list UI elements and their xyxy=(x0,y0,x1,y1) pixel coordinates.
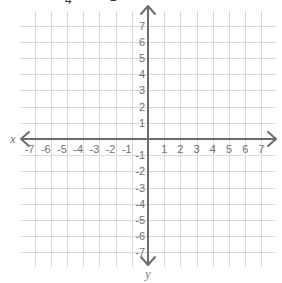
x-tick-label: 4 xyxy=(210,143,216,155)
y-tick-label: 5 xyxy=(139,52,145,64)
y-tick-label: 7 xyxy=(139,20,145,32)
x-tick-label: 3 xyxy=(194,143,200,155)
y-tick-label: -4 xyxy=(135,198,145,210)
x-tick-label: -7 xyxy=(25,143,35,155)
y-tick-label: 3 xyxy=(139,84,145,96)
y-tick-label: -6 xyxy=(135,230,145,242)
x-tick-label: -3 xyxy=(90,143,100,155)
cropped-header-fragment-1: 4 xyxy=(65,0,72,6)
x-tick-label: -4 xyxy=(73,143,83,155)
x-axis-label: x xyxy=(9,132,16,146)
x-tick-label: 2 xyxy=(177,143,183,155)
cropped-header-fragment-2: 2 xyxy=(110,0,117,3)
axes xyxy=(21,6,276,265)
y-tick-label: -5 xyxy=(135,214,145,226)
y-tick-label: 1 xyxy=(139,117,145,129)
y-tick-label: -7 xyxy=(135,246,145,258)
y-tick-label: 4 xyxy=(139,68,145,80)
x-tick-label: -6 xyxy=(41,143,51,155)
y-tick-label: 2 xyxy=(139,101,145,113)
coordinate-plane-figure: 4 2 -7-6-5-4-3-2-112345677654321-1-2-3-4… xyxy=(0,0,282,283)
y-tick-label: 6 xyxy=(139,36,145,48)
x-tick-label: 1 xyxy=(161,143,167,155)
x-tick-label: 5 xyxy=(226,143,232,155)
x-tick-label: 7 xyxy=(258,143,264,155)
x-tick-label: -1 xyxy=(122,143,132,155)
y-axis-label: y xyxy=(144,267,151,281)
y-tick-label: -3 xyxy=(135,182,145,194)
x-tick-label: -2 xyxy=(106,143,116,155)
coordinate-grid: -7-6-5-4-3-2-112345677654321-1-2-3-4-5-6… xyxy=(0,0,282,283)
x-tick-label: 6 xyxy=(242,143,248,155)
y-tick-label: -1 xyxy=(135,149,145,161)
x-tick-label: -5 xyxy=(57,143,67,155)
y-tick-label: -2 xyxy=(135,165,145,177)
